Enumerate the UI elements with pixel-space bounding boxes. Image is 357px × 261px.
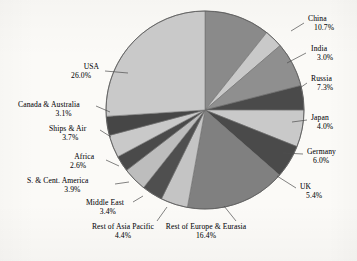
pie-slice-label: India3.0%: [311, 44, 333, 62]
pie-label-value: 7.3%: [311, 83, 333, 92]
pie-label-name: India: [311, 44, 333, 53]
pie-label-name: Africa: [70, 152, 94, 161]
pie-slice-label: Rest of Europe & Eurasia16.4%: [166, 222, 246, 240]
pie-label-value: 5.4%: [300, 191, 322, 200]
pie-label-name: Germany: [307, 147, 336, 156]
leader-line: [224, 206, 236, 221]
pie-label-name: Rest of Europe & Eurasia: [166, 222, 246, 231]
pie-slice-label: Russia7.3%: [311, 74, 333, 92]
pie-label-value: 4.0%: [311, 122, 333, 131]
pie-label-value: 3.1%: [18, 109, 80, 118]
pie-label-value: 2.6%: [70, 161, 94, 170]
pie-label-value: 3.7%: [49, 133, 86, 142]
leader-line: [291, 23, 304, 31]
pie-label-name: Middle East: [86, 198, 124, 207]
leader-line: [287, 53, 306, 63]
leader-line: [157, 207, 167, 221]
pie-slice-label: S. & Cent. America3.9%: [27, 176, 89, 194]
pie-slice-label: Germany6.0%: [307, 147, 336, 165]
pie-slice-label: Middle East3.4%: [86, 198, 124, 216]
pie-label-value: 6.0%: [307, 156, 336, 165]
pie-slice-label: USA26.0%: [71, 62, 99, 80]
pie-slice-label: Japan4.0%: [311, 113, 333, 131]
leader-line: [106, 160, 119, 166]
pie-slice-label: UK5.4%: [300, 182, 322, 200]
pie-chart-figure: China10.7%India3.0%Russia7.3%Japan4.0%Ge…: [0, 0, 357, 261]
pie-label-name: Canada & Australia: [18, 100, 80, 109]
pie-label-name: S. & Cent. America: [27, 176, 89, 185]
pie-slice-group: [106, 11, 304, 209]
pie-label-name: UK: [300, 182, 322, 191]
pie-label-name: Japan: [311, 113, 333, 122]
pie-slice-label: Rest of Asia Pacific4.4%: [92, 222, 154, 240]
pie-slice-label: Canada & Australia3.1%: [18, 100, 80, 118]
pie-label-name: Ships & Air: [49, 124, 86, 133]
pie-slice-label: Africa2.6%: [70, 152, 94, 170]
pie-slice-label: Ships & Air3.7%: [49, 124, 86, 142]
pie-label-value: 3.0%: [311, 53, 333, 62]
pie-label-value: 3.9%: [27, 185, 89, 194]
pie-label-name: China: [308, 14, 334, 23]
pie-label-value: 10.7%: [308, 23, 334, 32]
pie-label-name: Russia: [311, 74, 333, 83]
pie-label-name: Rest of Asia Pacific: [92, 222, 154, 231]
pie-slice[interactable]: [106, 11, 205, 116]
pie-label-value: 26.0%: [71, 71, 99, 80]
pie-label-value: 4.4%: [92, 231, 154, 240]
pie-label-value: 3.4%: [86, 207, 124, 216]
pie-label-name: USA: [71, 62, 99, 71]
pie-label-value: 16.4%: [166, 231, 246, 240]
leader-line: [133, 196, 143, 202]
leader-line: [277, 176, 296, 188]
leader-line: [115, 182, 129, 184]
pie-slice-label: China10.7%: [308, 14, 334, 32]
